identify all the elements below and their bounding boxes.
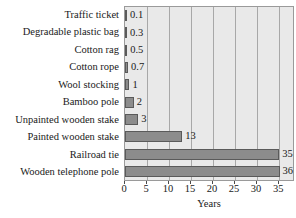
category-label-cell: Painted wooden stake	[0, 129, 122, 147]
x-tick-label: 30	[251, 184, 262, 195]
x-axis: 05101520253035	[124, 181, 294, 195]
bars-layer: 0.10.30.50.7123133536	[125, 7, 293, 180]
x-axis-title: Years	[124, 199, 294, 210]
category-label: Degradable plastic bag	[23, 27, 119, 38]
category-label-cell: Bamboo pole	[0, 94, 122, 112]
category-label-cell: Railroad tie	[0, 146, 122, 164]
bar-value-label: 0.1	[130, 10, 143, 21]
bar	[125, 97, 134, 108]
category-label: Painted wooden stake	[27, 132, 119, 143]
bar-row: 0.5	[125, 42, 293, 59]
bar	[125, 10, 127, 21]
bar	[125, 114, 138, 125]
bar	[125, 149, 279, 160]
category-label: Wool stocking	[58, 80, 119, 91]
x-tick-label: 0	[121, 184, 126, 195]
category-label: Cotton rope	[69, 62, 119, 73]
bar-value-label: 13	[185, 131, 196, 142]
plot-area: 0.10.30.50.7123133536	[124, 6, 294, 181]
category-label: Bamboo pole	[63, 97, 119, 108]
bar-row: 0.1	[125, 7, 293, 24]
bar-row: 3	[125, 111, 293, 128]
category-label-cell: Cotton rope	[0, 59, 122, 77]
bar-value-label: 2	[137, 97, 142, 108]
x-tick-label: 10	[163, 184, 174, 195]
bar-value-label: 0.3	[130, 28, 143, 39]
bar-value-label: 0.7	[131, 62, 144, 73]
bar	[125, 131, 182, 142]
category-label: Railroad tie	[70, 150, 119, 161]
category-label: Wooden telephone pole	[20, 167, 119, 178]
bar-chart: Traffic ticketDegradable plastic bagCott…	[0, 0, 296, 218]
bar-value-label: 35	[282, 149, 293, 160]
bar-row: 36	[125, 163, 293, 180]
category-label: Cotton rag	[74, 45, 119, 56]
bar	[125, 27, 127, 38]
bar	[125, 62, 128, 73]
bar	[125, 79, 129, 90]
bar-row: 0.7	[125, 59, 293, 76]
bar-value-label: 3	[141, 114, 146, 125]
bar-value-label: 0.5	[130, 45, 143, 56]
category-label: Traffic ticket	[64, 10, 119, 21]
x-tick-label: 35	[273, 184, 284, 195]
x-tick-label: 5	[143, 184, 148, 195]
bar-value-label: 36	[283, 166, 294, 177]
category-label-cell: Traffic ticket	[0, 6, 122, 24]
x-tick-label: 15	[185, 184, 196, 195]
bar	[125, 166, 280, 177]
category-label-cell: Wooden telephone pole	[0, 164, 122, 182]
bar-value-label: 1	[132, 80, 137, 91]
bar	[125, 45, 127, 56]
bar-row: 35	[125, 145, 293, 162]
category-label-cell: Unpainted wooden stake	[0, 111, 122, 129]
x-tick-label: 25	[229, 184, 240, 195]
bar-row: 13	[125, 128, 293, 145]
category-label: Unpainted wooden stake	[15, 115, 119, 126]
bar-row: 2	[125, 93, 293, 110]
category-label-cell: Degradable plastic bag	[0, 24, 122, 42]
x-tick-label: 20	[207, 184, 218, 195]
category-label-cell: Cotton rag	[0, 41, 122, 59]
category-axis: Traffic ticketDegradable plastic bagCott…	[0, 6, 122, 181]
bar-row: 0.3	[125, 24, 293, 41]
bar-row: 1	[125, 76, 293, 93]
category-label-cell: Wool stocking	[0, 76, 122, 94]
